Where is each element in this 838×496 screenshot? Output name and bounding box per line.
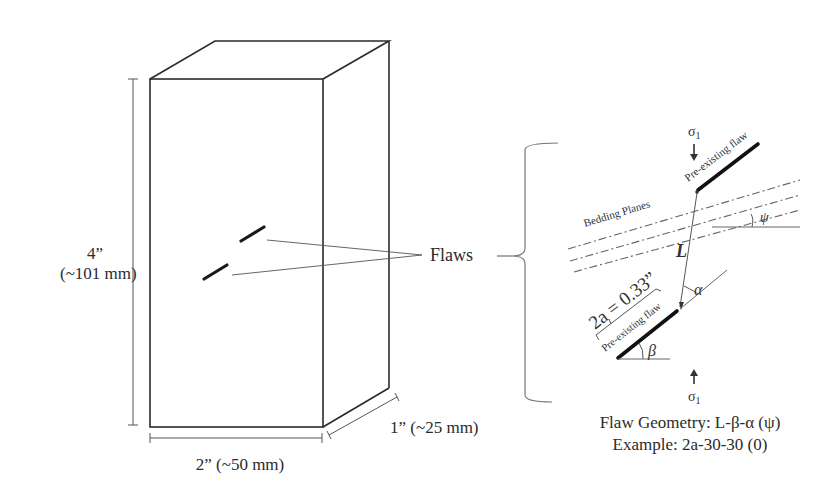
flaw-leader-lines bbox=[232, 240, 422, 275]
curly-brace bbox=[512, 143, 558, 402]
beta-label: β bbox=[647, 342, 656, 360]
sigma-top-label: σ1 bbox=[688, 124, 701, 141]
ligament-label: L bbox=[675, 241, 687, 261]
flaw-detail: Pre-existing flaw Bedding Planes Pre-exi… bbox=[568, 124, 800, 406]
arrow-down-icon bbox=[690, 154, 698, 161]
psi-arc bbox=[751, 214, 753, 227]
depth-label: 1” (~25 mm) bbox=[390, 418, 479, 438]
width-label: 2” (~50 mm) bbox=[170, 455, 310, 475]
caption-example: Example: 2a-30-30 (0) bbox=[565, 434, 815, 456]
bedding-planes-label: Bedding Planes bbox=[582, 197, 651, 229]
ligament-start-dot bbox=[695, 190, 699, 194]
lower-flaw bbox=[204, 265, 227, 279]
dimension-lines bbox=[128, 79, 399, 443]
arrow-up-icon bbox=[690, 369, 698, 376]
specimen-box bbox=[150, 41, 389, 427]
upper-flaw bbox=[241, 227, 264, 241]
height-label: 4” (~101 mm) bbox=[60, 244, 130, 284]
alpha-reference-line bbox=[680, 270, 727, 309]
front-face bbox=[150, 79, 323, 427]
top-face bbox=[150, 41, 389, 79]
psi-label: ψ bbox=[760, 210, 769, 225]
height-mm: (~101 mm) bbox=[60, 264, 130, 284]
flaws-label: Flaws bbox=[430, 245, 473, 266]
height-inches: 4” bbox=[60, 244, 130, 264]
specimen-flaws bbox=[204, 227, 264, 279]
sigma-bottom-label: σ1 bbox=[688, 389, 701, 406]
beta-arc bbox=[639, 343, 643, 359]
alpha-label: α bbox=[694, 281, 703, 298]
caption-flaw-geometry: Flaw Geometry: L-β-α (ψ) bbox=[565, 412, 815, 434]
flaw-length-label: 2a = 0.33” bbox=[585, 267, 661, 333]
